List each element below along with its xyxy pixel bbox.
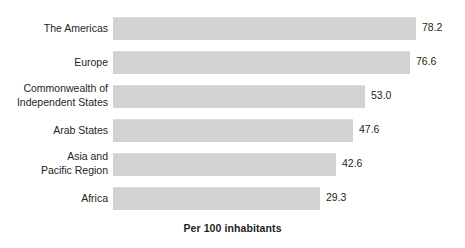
bar [113,17,416,40]
bar-row: Europe 76.6 [0,46,465,80]
category-label: Africa [0,192,108,206]
bar-track [113,119,353,142]
bar-track [113,187,320,210]
bar [113,119,353,142]
plot-area: The Americas 78.2 Europe 76.6 Commonweal… [0,0,465,215]
bar-chart: The Americas 78.2 Europe 76.6 Commonweal… [0,0,465,248]
bar [113,51,410,74]
value-label: 47.6 [359,123,379,135]
bar-row: Asia and Pacific Region 42.6 [0,148,465,182]
value-label: 76.6 [416,55,436,67]
category-label: The Americas [0,22,108,36]
bar [113,153,336,176]
bar [113,85,365,108]
bar-row: Arab States 47.6 [0,114,465,148]
value-label: 42.6 [342,157,362,169]
category-label: Commonwealth of Independent States [0,82,108,109]
value-label: 78.2 [422,21,442,33]
bar-track [113,85,365,108]
value-label: 53.0 [371,89,391,101]
bar-track [113,153,336,176]
x-axis-title: Per 100 inhabitants [0,222,465,234]
bar-track [113,51,410,74]
category-label: Arab States [0,124,108,138]
bar-track [113,17,416,40]
bar-row: Commonwealth of Independent States 53.0 [0,80,465,114]
category-label: Asia and Pacific Region [0,150,108,177]
bar-row: Africa 29.3 [0,182,465,216]
bar [113,187,320,210]
value-label: 29.3 [326,191,346,203]
category-label: Europe [0,56,108,70]
bar-row: The Americas 78.2 [0,12,465,46]
